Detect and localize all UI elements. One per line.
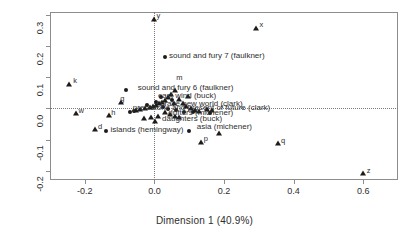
- vertical-reference-line: [154, 12, 155, 180]
- data-point-triangle: [253, 25, 259, 30]
- data-point-triangle: [66, 82, 72, 87]
- data-point-circle: [163, 55, 167, 59]
- y-tick: [46, 77, 50, 78]
- data-point-triangle: [152, 118, 158, 123]
- point-label: d: [98, 121, 102, 130]
- point-label: daughters (buck): [162, 113, 222, 122]
- point-label: m: [176, 72, 182, 81]
- x-tick-label: 0.4: [287, 186, 300, 196]
- x-tick: [154, 180, 155, 184]
- point-label: y: [156, 11, 160, 20]
- y-tick-label: 0.2: [35, 46, 45, 72]
- point-label: islands (hemingway): [111, 124, 184, 133]
- y-tick-label: 0.0: [35, 108, 45, 134]
- scatter-plot: Dimension 2 (19.7%) -0.20.00.20.40.6-0.2…: [0, 0, 409, 229]
- x-tick: [224, 180, 225, 184]
- y-tick: [46, 46, 50, 47]
- y-tick: [46, 171, 50, 172]
- data-point-circle: [124, 88, 128, 92]
- x-tick-label: 0.6: [357, 186, 370, 196]
- point-label: w: [79, 106, 84, 115]
- x-tick: [85, 180, 86, 184]
- data-point-triangle: [216, 131, 222, 136]
- x-tick-label: -0.2: [77, 186, 93, 196]
- y-tick-label: 0.3: [35, 15, 45, 41]
- point-label: x: [259, 20, 263, 29]
- y-tick-label: -0.2: [35, 171, 45, 197]
- point-label: z: [367, 165, 371, 174]
- data-point-triangle: [360, 170, 366, 175]
- point-label: p: [204, 134, 208, 143]
- x-tick: [294, 180, 295, 184]
- point-label: sound and fury 7 (faulkner): [169, 50, 265, 59]
- y-tick-label: -0.1: [35, 140, 45, 166]
- point-label: h: [111, 107, 115, 116]
- data-point-circle: [187, 129, 191, 133]
- point-label: asia (michener): [197, 122, 252, 131]
- x-tick: [363, 180, 364, 184]
- x-tick-label: 0.2: [218, 186, 231, 196]
- data-point-triangle: [275, 141, 281, 146]
- data-point-circle: [128, 110, 132, 114]
- y-tick: [46, 140, 50, 141]
- y-tick: [46, 15, 50, 16]
- point-label: k: [73, 76, 77, 85]
- plot-frame: [50, 12, 398, 180]
- data-point-triangle: [141, 115, 147, 120]
- data-point-circle: [104, 129, 108, 133]
- point-label: g: [120, 93, 124, 102]
- x-axis-title: Dimension 1 (40.9%): [0, 215, 409, 226]
- y-tick-label: 0.1: [35, 77, 45, 103]
- point-label: q: [281, 136, 285, 145]
- x-tick-label: 0.0: [148, 186, 161, 196]
